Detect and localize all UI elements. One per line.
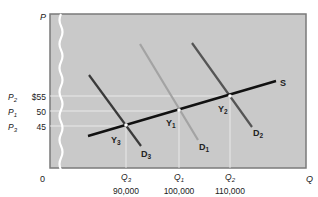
q2-tick-value: 110,000: [215, 186, 245, 196]
q1-tick-label: Q1: [174, 172, 184, 183]
p3-tick-label: P3: [8, 122, 18, 133]
q3-tick-value: 90,000: [113, 186, 139, 196]
equilibrium-point-y2: [228, 94, 232, 98]
q-axis-label: Q: [306, 174, 313, 184]
p3-tick-value: 45: [37, 122, 47, 132]
q1-tick-value: 100,000: [164, 186, 195, 196]
p2-tick-label: P2: [8, 92, 18, 103]
q3-tick-label: Q3: [121, 172, 132, 183]
p2-tick-value: $55: [32, 92, 46, 102]
p1-tick-value: 50: [37, 107, 47, 117]
supply-demand-chart: S D3 D1 D2 Y3 Y1 Y2 P Q 0 P2 $55 P1 50 P…: [0, 0, 318, 197]
equilibrium-point-y1: [177, 108, 181, 112]
equilibrium-point-y3: [124, 123, 128, 127]
origin-label: 0: [40, 174, 45, 184]
q2-tick-label: Q2: [225, 172, 236, 183]
plot-area: [50, 14, 306, 168]
p-axis-label: P: [40, 12, 46, 22]
p1-tick-label: P1: [8, 107, 17, 118]
supply-label: S: [280, 78, 286, 88]
